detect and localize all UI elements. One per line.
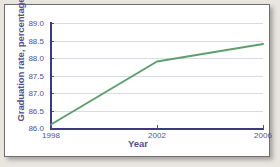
x-tick-mark [263,125,264,129]
y-tick-label: 87.5 [4,71,44,80]
y-tick-label: 86.5 [4,106,44,115]
chart-figure-frame: Graduation rate, percentage 86.086.587.0… [4,4,270,157]
y-tick-label: 88.5 [4,36,44,45]
line-series-graduation-rate [51,23,263,128]
x-axis-title: Year [5,138,271,149]
series-polyline [51,44,263,125]
figure-page: Graduation rate, percentage 86.086.587.0… [0,0,280,167]
y-tick-label: 88.0 [4,54,44,63]
y-tick-label: 87.0 [4,89,44,98]
y-tick-label: 89.0 [4,19,44,28]
